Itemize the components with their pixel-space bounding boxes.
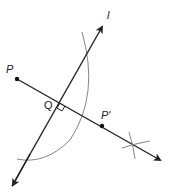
point-p-prime [100, 124, 104, 128]
label-line-l: l [107, 10, 109, 21]
label-p: P [6, 64, 13, 75]
point-p [15, 77, 19, 81]
line-p-to-p-prime [17, 79, 160, 160]
line-l-bottom-arrow [13, 154, 30, 185]
label-q: Q [44, 100, 53, 111]
compass-arc [17, 32, 89, 160]
label-p-prime: P' [101, 110, 110, 121]
diagram-svg [0, 0, 174, 196]
reflection-diagram: P Q P' l [0, 0, 174, 196]
